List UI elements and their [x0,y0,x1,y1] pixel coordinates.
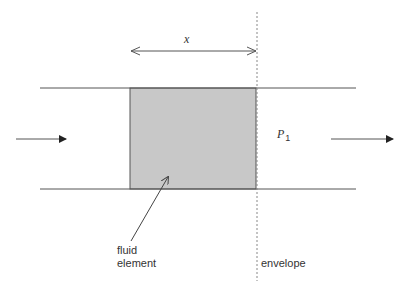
label-fluid-line2: element [117,257,156,270]
label-fluid-element: fluid element [117,244,156,270]
label-pressure: P1 [277,128,290,142]
diagram-canvas [0,0,411,281]
fluid-element-block [130,88,256,189]
label-pressure-symbol: P [277,127,284,141]
label-x: x [184,33,189,46]
label-envelope: envelope [261,257,306,270]
label-pressure-subscript: 1 [285,133,290,143]
label-fluid-line1: fluid [117,244,156,257]
